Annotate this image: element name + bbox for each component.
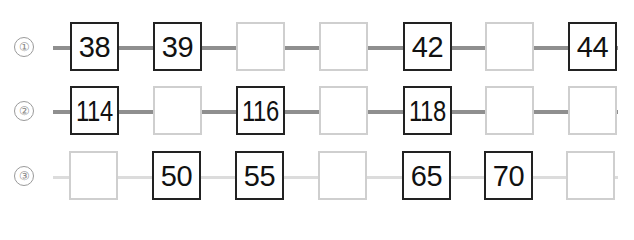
- answer-box[interactable]: [319, 22, 368, 71]
- row-number-label: ③: [14, 166, 34, 186]
- answer-box[interactable]: [69, 151, 118, 200]
- answer-box[interactable]: [153, 86, 202, 135]
- answer-box[interactable]: [566, 151, 615, 200]
- sequence-box: 38: [70, 22, 119, 71]
- sequence-box: 44: [568, 22, 617, 71]
- sequence-box: 39: [153, 22, 202, 71]
- sequence-box: 42: [403, 22, 452, 71]
- sequence-box: 118: [403, 86, 452, 135]
- answer-box[interactable]: [568, 86, 617, 135]
- sequence-row-1: ① 38 39 42 44: [0, 22, 634, 74]
- answer-box[interactable]: [236, 22, 285, 71]
- row-number-label: ①: [14, 37, 34, 57]
- sequence-row-2: ② 114 116 118: [0, 86, 634, 138]
- sequence-box: 65: [402, 151, 451, 200]
- sequence-box: 116: [236, 86, 285, 135]
- answer-box[interactable]: [485, 86, 534, 135]
- answer-box[interactable]: [318, 151, 367, 200]
- row-number-label: ②: [14, 101, 34, 121]
- sequence-box: 114: [70, 86, 119, 135]
- sequence-row-3: ③ 50 55 65 70: [0, 151, 634, 203]
- sequence-box: 70: [484, 151, 533, 200]
- answer-box[interactable]: [319, 86, 368, 135]
- sequence-box: 55: [235, 151, 284, 200]
- sequence-box: 50: [152, 151, 201, 200]
- answer-box[interactable]: [485, 22, 534, 71]
